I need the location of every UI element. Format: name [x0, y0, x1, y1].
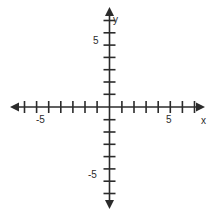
y-axis-label: y: [113, 15, 118, 25]
x-axis-right-arrow-icon: [196, 103, 205, 112]
x-tick-label-positive-5: 5: [166, 115, 172, 125]
x-axis-label: x: [201, 116, 206, 126]
y-axis-down-arrow-icon: [105, 200, 114, 209]
y-tick-label-positive-5: 5: [93, 36, 99, 46]
x-axis-left-arrow-icon: [10, 103, 19, 112]
y-tick-label-negative-5: -5: [88, 170, 97, 180]
coordinate-plane-graph: y x 5 -5 -5 5: [0, 0, 218, 214]
x-tick-label-negative-5: -5: [36, 115, 45, 125]
axes-svg: [0, 0, 218, 214]
